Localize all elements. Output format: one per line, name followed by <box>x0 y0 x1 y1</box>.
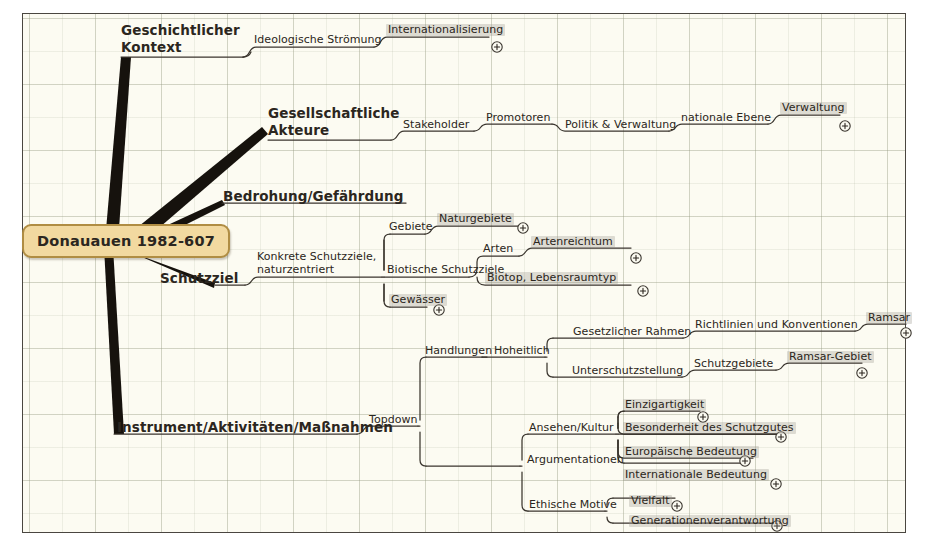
node-ideologische-stroemung[interactable]: Ideologische Strömung <box>254 34 382 46</box>
node-label: Internationalisierung <box>388 23 503 36</box>
root-node[interactable]: Donauauen 1982-607 <box>22 224 230 258</box>
node-vielfalt[interactable]: Vielfalt <box>629 495 672 507</box>
node-label: Ansehen/Kultur <box>529 421 614 434</box>
node-naturgebiete[interactable]: Naturgebiete <box>437 213 514 225</box>
node-einzigartigkeit[interactable]: Einzigartigkeit <box>623 399 706 411</box>
node-label: Vielfalt <box>631 494 670 507</box>
node-besonderheit-schutzgutes[interactable]: Besonderheit des Schutzgutes <box>623 422 796 434</box>
node-topdown[interactable]: Topdown <box>369 414 418 426</box>
node-gewaesser[interactable]: Gewässer <box>389 294 447 306</box>
node-label: Politik & Verwaltung <box>565 118 676 131</box>
node-label: Unterschutzstellung <box>572 364 683 377</box>
node-label: Ideologische Strömung <box>254 33 382 46</box>
node-label: Handlungen <box>425 344 492 357</box>
node-label: Artenreichtum <box>533 235 613 248</box>
mindmap-stage: Donauauen 1982-607 Geschichtlicher Konte… <box>0 0 929 551</box>
node-handlungen[interactable]: Handlungen <box>425 345 492 357</box>
branch-label: Schutzziel <box>160 270 239 286</box>
node-label: Einzigartigkeit <box>625 398 704 411</box>
node-label: Promotoren <box>486 111 550 124</box>
node-hoheitlich[interactable]: Hoheitlich <box>494 345 550 357</box>
branch-label-line2: Akteure <box>268 122 400 139</box>
node-europaeische-bedeutung[interactable]: Europäische Bedeutung <box>623 446 759 458</box>
node-label: Gebiete <box>389 220 433 233</box>
node-label: Arten <box>483 242 513 255</box>
node-gesetzlicher-rahmen[interactable]: Gesetzlicher Rahmen <box>573 326 691 338</box>
node-internationale-bedeutung[interactable]: Internationale Bedeutung <box>623 469 769 481</box>
node-artenreichtum[interactable]: Artenreichtum <box>531 236 615 248</box>
node-label: Biotop, Lebensraumtyp <box>487 271 616 284</box>
node-ethische-motive[interactable]: Ethische Motive <box>529 499 617 511</box>
node-arten[interactable]: Arten <box>483 243 513 255</box>
node-schutzgebiete[interactable]: Schutzgebiete <box>694 358 773 370</box>
node-label: Generationenverantwortung <box>631 514 789 527</box>
branch-label-line2: Kontext <box>121 39 240 56</box>
node-label: Schutzgebiete <box>694 357 773 370</box>
node-verwaltung[interactable]: Verwaltung <box>780 102 847 114</box>
node-label: Hoheitlich <box>494 344 550 357</box>
node-generationenverantwortung[interactable]: Generationenverantwortung <box>629 515 791 527</box>
node-label-line1: Konkrete Schutzziele, <box>257 250 376 263</box>
node-label: Internationale Bedeutung <box>625 468 767 481</box>
branch-label-line1: Gesellschaftliche <box>268 105 400 122</box>
node-label: Richtlinien und Konventionen <box>695 318 858 331</box>
node-label: Ramsar <box>868 311 910 324</box>
node-label: Stakeholder <box>403 118 469 131</box>
node-ramsar-gebiet[interactable]: Ramsar-Gebiet <box>787 351 874 363</box>
node-ansehen-kultur[interactable]: Ansehen/Kultur <box>529 422 614 434</box>
node-label: Gesetzlicher Rahmen <box>573 325 691 338</box>
branch-bedrohung-gefaehrdung[interactable]: Bedrohung/Gefährdung <box>223 189 404 204</box>
branch-instrument[interactable]: Instrument/Aktivitäten/Maßnahmen <box>117 420 393 435</box>
node-stakeholder[interactable]: Stakeholder <box>403 119 469 131</box>
node-label-line2: naturzentriert <box>257 263 376 276</box>
branch-schutzziel[interactable]: Schutzziel <box>160 271 239 286</box>
root-node-label: Donauauen 1982-607 <box>37 233 215 249</box>
node-label: Ramsar-Gebiet <box>789 350 872 363</box>
node-label: Gewässer <box>391 293 445 306</box>
node-biotop-lebensraumtyp[interactable]: Biotop, Lebensraumtyp <box>485 272 618 284</box>
node-label: Ethische Motive <box>529 498 617 511</box>
branch-gesellschaftliche-akteure[interactable]: Gesellschaftliche Akteure <box>268 105 400 140</box>
node-label: Naturgebiete <box>439 212 512 225</box>
branch-label: Instrument/Aktivitäten/Maßnahmen <box>117 419 393 435</box>
node-label: Verwaltung <box>782 101 845 114</box>
node-konkrete-schutzziele[interactable]: Konkrete Schutzziele, naturzentriert <box>257 250 376 276</box>
node-label: Europäische Bedeutung <box>625 445 757 458</box>
node-label: Argumentationen <box>527 453 624 466</box>
branch-label-line1: Geschichtlicher <box>121 22 240 39</box>
node-richtlinien-konventionen[interactable]: Richtlinien und Konventionen <box>695 319 858 331</box>
node-ramsar[interactable]: Ramsar <box>866 312 912 324</box>
node-gebiete[interactable]: Gebiete <box>389 221 433 233</box>
node-label: Besonderheit des Schutzgutes <box>625 421 794 434</box>
node-politik-verwaltung[interactable]: Politik & Verwaltung <box>565 119 676 131</box>
node-label: nationale Ebene <box>681 111 771 124</box>
node-label: Topdown <box>369 413 418 426</box>
node-argumentationen[interactable]: Argumentationen <box>527 454 624 466</box>
node-unterschutzstellung[interactable]: Unterschutzstellung <box>572 365 683 377</box>
node-internationalisierung[interactable]: Internationalisierung <box>386 24 505 36</box>
branch-label: Bedrohung/Gefährdung <box>223 188 404 204</box>
node-promotoren[interactable]: Promotoren <box>486 112 550 124</box>
node-nationale-ebene[interactable]: nationale Ebene <box>681 112 771 124</box>
branch-geschichtlicher-kontext[interactable]: Geschichtlicher Kontext <box>121 22 240 57</box>
